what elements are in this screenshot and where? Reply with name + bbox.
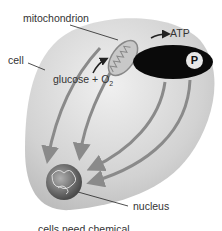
- glucose-text: glucose + O: [53, 73, 109, 85]
- caption-text: cells need chemical: [38, 224, 130, 231]
- label-mitochondrion: mitochondrion: [23, 13, 89, 24]
- o2-subscript: 2: [109, 80, 113, 87]
- label-nucleus: nucleus: [133, 201, 169, 212]
- label-glucose: glucose + O2: [53, 74, 113, 87]
- label-cell: cell: [8, 55, 24, 66]
- label-atp: ATP: [170, 28, 190, 39]
- phosphate-badge: P: [186, 52, 203, 69]
- nucleus-icon: [46, 164, 82, 200]
